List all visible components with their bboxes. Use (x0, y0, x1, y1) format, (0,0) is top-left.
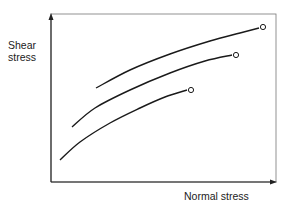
middle-curve (72, 55, 232, 127)
upper-curve (96, 28, 259, 88)
middle-curve-end-marker (233, 52, 238, 57)
lower-curve (60, 90, 187, 160)
y-axis-label-line-2: stress (8, 51, 48, 63)
y-axis-label-line-1: Shear (8, 39, 48, 51)
x-axis-label: Normal stress (184, 190, 249, 202)
y-axis-label: Shear stress (8, 39, 48, 63)
lower-curve-end-marker (188, 87, 193, 92)
shear-vs-normal-stress-diagram (0, 0, 291, 210)
upper-curve-end-marker (260, 24, 265, 29)
